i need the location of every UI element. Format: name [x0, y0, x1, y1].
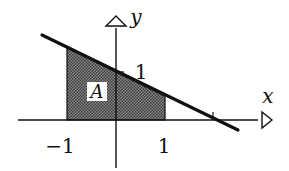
graph-canvas: A x y 1 −1 1 [0, 0, 289, 171]
x-tick-label-neg-one: −1 [45, 134, 74, 158]
x-axis-label: x [262, 84, 273, 108]
y-axis-arrow-icon [106, 16, 126, 26]
y-axis-label: y [129, 5, 142, 29]
x-tick-label-one: 1 [158, 134, 171, 158]
region-label-a: A [89, 81, 104, 102]
x-axis-arrow-icon [262, 112, 272, 128]
